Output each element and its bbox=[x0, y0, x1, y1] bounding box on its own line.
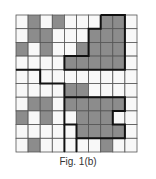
figure: Fig. 1(b) bbox=[0, 0, 156, 179]
empty-cell bbox=[125, 125, 137, 139]
filled-cell bbox=[101, 138, 113, 152]
filled-cell bbox=[101, 29, 113, 43]
empty-cell bbox=[64, 15, 76, 29]
filled-cell bbox=[77, 97, 89, 111]
empty-cell bbox=[16, 84, 28, 98]
filled-cell bbox=[16, 42, 28, 56]
empty-cell bbox=[89, 70, 101, 84]
filled-cell bbox=[89, 56, 101, 70]
filled-cell bbox=[77, 125, 89, 139]
filled-cell bbox=[16, 111, 28, 125]
filled-cell bbox=[89, 125, 101, 139]
empty-cell bbox=[113, 111, 125, 125]
filled-cell bbox=[64, 97, 76, 111]
empty-cell bbox=[40, 125, 52, 139]
filled-cell bbox=[40, 29, 52, 43]
filled-cell bbox=[28, 138, 40, 152]
empty-cell bbox=[64, 138, 76, 152]
empty-cell bbox=[28, 42, 40, 56]
filled-cell bbox=[40, 42, 52, 56]
filled-cell bbox=[77, 56, 89, 70]
empty-cell bbox=[64, 42, 76, 56]
empty-cell bbox=[64, 125, 76, 139]
filled-cell bbox=[113, 56, 125, 70]
empty-cell bbox=[16, 138, 28, 152]
figure-caption: Fig. 1(b) bbox=[0, 156, 156, 167]
empty-cell bbox=[16, 125, 28, 139]
empty-cell bbox=[52, 138, 64, 152]
empty-cell bbox=[125, 42, 137, 56]
filled-cell bbox=[113, 97, 125, 111]
filled-cell bbox=[77, 42, 89, 56]
empty-cell bbox=[125, 15, 137, 29]
empty-cell bbox=[52, 70, 64, 84]
empty-cell bbox=[101, 70, 113, 84]
filled-cell bbox=[52, 15, 64, 29]
filled-cell bbox=[101, 125, 113, 139]
empty-cell bbox=[40, 56, 52, 70]
empty-cell bbox=[89, 15, 101, 29]
empty-cell bbox=[52, 42, 64, 56]
empty-cell bbox=[52, 125, 64, 139]
filled-cell bbox=[101, 42, 113, 56]
empty-cell bbox=[113, 138, 125, 152]
empty-cell bbox=[77, 138, 89, 152]
filled-cell bbox=[64, 84, 76, 98]
empty-cell bbox=[77, 29, 89, 43]
empty-cell bbox=[16, 15, 28, 29]
empty-cell bbox=[64, 111, 76, 125]
empty-cell bbox=[125, 138, 137, 152]
empty-cell bbox=[52, 29, 64, 43]
empty-cell bbox=[16, 97, 28, 111]
empty-cell bbox=[16, 56, 28, 70]
filled-cell bbox=[28, 97, 40, 111]
empty-cell bbox=[125, 56, 137, 70]
empty-cell bbox=[125, 70, 137, 84]
empty-cell bbox=[28, 56, 40, 70]
filled-cell bbox=[113, 15, 125, 29]
empty-cell bbox=[125, 97, 137, 111]
filled-cell bbox=[113, 42, 125, 56]
empty-cell bbox=[40, 70, 52, 84]
empty-cell bbox=[28, 111, 40, 125]
empty-cell bbox=[40, 138, 52, 152]
filled-cell bbox=[28, 15, 40, 29]
filled-cell bbox=[89, 97, 101, 111]
empty-cell bbox=[52, 97, 64, 111]
empty-cell bbox=[125, 84, 137, 98]
empty-cell bbox=[52, 56, 64, 70]
empty-cell bbox=[77, 70, 89, 84]
filled-cell bbox=[101, 15, 113, 29]
empty-cell bbox=[28, 70, 40, 84]
empty-cell bbox=[64, 70, 76, 84]
empty-cell bbox=[16, 29, 28, 43]
filled-cell bbox=[40, 97, 52, 111]
filled-cell bbox=[40, 111, 52, 125]
grid-diagram bbox=[0, 0, 156, 156]
filled-cell bbox=[64, 56, 76, 70]
empty-cell bbox=[16, 70, 28, 84]
filled-cell bbox=[113, 125, 125, 139]
filled-cell bbox=[89, 29, 101, 43]
filled-cell bbox=[101, 111, 113, 125]
filled-cell bbox=[77, 84, 89, 98]
empty-cell bbox=[28, 125, 40, 139]
empty-cell bbox=[28, 84, 40, 98]
empty-cell bbox=[125, 111, 137, 125]
empty-cell bbox=[125, 29, 137, 43]
empty-cell bbox=[113, 70, 125, 84]
empty-cell bbox=[40, 84, 52, 98]
filled-cell bbox=[101, 97, 113, 111]
empty-cell bbox=[89, 138, 101, 152]
filled-cell bbox=[89, 42, 101, 56]
empty-cell bbox=[52, 84, 64, 98]
empty-cell bbox=[77, 15, 89, 29]
filled-cell bbox=[77, 111, 89, 125]
empty-cell bbox=[89, 84, 101, 98]
empty-cell bbox=[101, 84, 113, 98]
filled-cell bbox=[113, 29, 125, 43]
filled-cell bbox=[101, 56, 113, 70]
filled-cell bbox=[89, 111, 101, 125]
empty-cell bbox=[52, 111, 64, 125]
filled-cell bbox=[28, 29, 40, 43]
